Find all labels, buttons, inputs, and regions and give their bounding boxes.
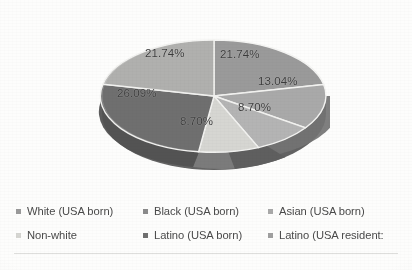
legend-item-non-white[interactable]: Non-white	[16, 224, 143, 246]
legend-label: Asian (USA born)	[279, 205, 365, 217]
legend-swatch-icon	[268, 233, 273, 238]
legend-item-white[interactable]: White (USA born)	[16, 200, 143, 222]
legend-swatch-icon	[16, 233, 21, 238]
legend-item-latino-resident[interactable]: Latino (USA resident:	[268, 224, 412, 246]
legend-swatch-icon	[143, 209, 148, 214]
legend-row: Non-white Latino (USA born) Latino (USA …	[16, 224, 412, 246]
slice-label-black: 13.04%	[258, 75, 298, 87]
slice-label-white: 21.74%	[220, 48, 260, 60]
slice-label-nonwhite: 8.70%	[180, 115, 213, 127]
legend-label: Latino (USA resident:	[279, 229, 384, 241]
page-rule	[14, 253, 398, 254]
slice-label-latino-born: 26.09%	[117, 87, 157, 99]
chart-page: 21.74% 13.04% 8.70% 8.70% 26.09% 21.74% …	[0, 0, 412, 270]
slice-label-latino-resident: 21.74%	[145, 47, 185, 59]
slice-label-asian: 8.70%	[238, 101, 271, 113]
legend-swatch-icon	[16, 209, 21, 214]
legend-label: White (USA born)	[27, 205, 113, 217]
pie-graphic: 21.74% 13.04% 8.70% 8.70% 26.09% 21.74%	[98, 18, 330, 174]
legend-swatch-icon	[143, 233, 148, 238]
legend-label: Non-white	[27, 229, 77, 241]
legend-label: Latino (USA born)	[154, 229, 242, 241]
legend-item-asian[interactable]: Asian (USA born)	[268, 200, 412, 222]
pie-chart: 21.74% 13.04% 8.70% 8.70% 26.09% 21.74%	[0, 0, 412, 192]
legend-swatch-icon	[268, 209, 273, 214]
legend-label: Black (USA born)	[154, 205, 239, 217]
chart-legend: White (USA born) Black (USA born) Asian …	[16, 200, 412, 250]
legend-item-latino-born[interactable]: Latino (USA born)	[143, 224, 268, 246]
legend-row: White (USA born) Black (USA born) Asian …	[16, 200, 412, 222]
legend-item-black[interactable]: Black (USA born)	[143, 200, 268, 222]
